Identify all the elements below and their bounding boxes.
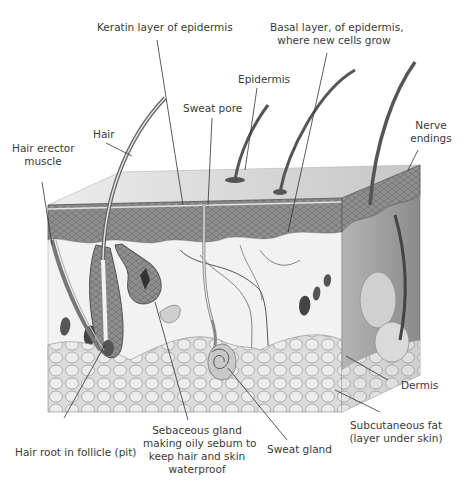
label-sweat-gland: Sweat gland [267, 443, 332, 456]
label-hair-erector-muscle: Hair erector muscle [12, 142, 74, 168]
label-subcutaneous-fat: Subcutaneous fat (layer under skin) [346, 419, 446, 445]
label-nerve-endings: Nerve endings [406, 119, 456, 145]
label-hair-erector-line1: Hair erector [12, 142, 74, 155]
label-subcut-line2: (layer under skin) [346, 432, 446, 445]
label-hair-root: Hair root in follicle (pit) [15, 446, 136, 459]
label-basal-layer: Basal layer, of epidermis, where new cel… [270, 21, 398, 47]
label-sebaceous-line1: Sebaceous gland [143, 424, 251, 437]
label-basal-line1: Basal layer, of epidermis, [270, 21, 398, 34]
label-sebaceous-gland: Sebaceous gland making oily sebum to kee… [143, 424, 251, 476]
label-sebaceous-line2: making oily sebum to [143, 437, 251, 450]
label-epidermis: Epidermis [238, 73, 290, 86]
label-nerve-line1: Nerve [406, 119, 456, 132]
label-sebaceous-line3: keep hair and skin [143, 450, 251, 463]
label-keratin-layer: Keratin layer of epidermis [97, 21, 233, 34]
label-subcut-line1: Subcutaneous fat [346, 419, 446, 432]
skin-side-face [342, 165, 420, 412]
subcutaneous-fat-layer [48, 335, 342, 412]
label-sweat-pore: Sweat pore [183, 102, 242, 115]
label-basal-line2: where new cells grow [270, 34, 398, 47]
label-nerve-line2: endings [406, 132, 456, 145]
label-dermis: Dermis [401, 379, 438, 392]
label-sebaceous-line4: waterproof [143, 463, 251, 476]
label-hair-erector-line2: muscle [12, 155, 74, 168]
label-hair: Hair [93, 128, 115, 141]
skin-cross-section-illustration [0, 0, 466, 485]
